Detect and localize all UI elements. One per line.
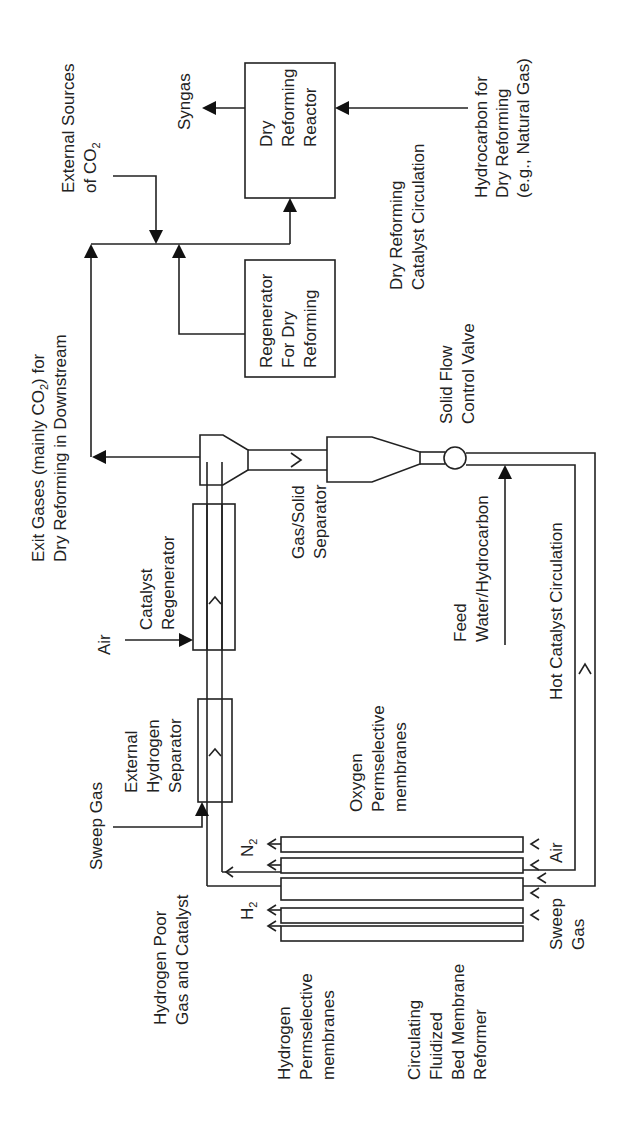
regenerator-output-arrow-icon [172, 244, 186, 258]
exit-gases-up-arrow-icon [84, 244, 98, 258]
oxygen-membranes-label-3: membranes [391, 722, 410, 812]
hydrogen-membranes-label-2: Permselective [297, 973, 316, 1080]
sweep-gas-bottom-label-1: Sweep [547, 898, 566, 950]
exit-gases-arrow-icon [92, 450, 106, 464]
regenerator-dry-label-2: For Dry [279, 311, 298, 368]
air-in-arrow-2-icon [531, 860, 539, 870]
air-regen-arrow-icon [179, 633, 193, 647]
ext-h2-separator-label-2: Hydrogen [144, 719, 163, 793]
external-co2-label-1: External Sources [59, 64, 78, 193]
reformer-bed [281, 878, 523, 900]
cfbmr-label-1: Circulating [405, 1000, 424, 1080]
sweep-gas-bottom-label-2: Gas [569, 919, 588, 950]
transfer-flow-arrow-icon [291, 453, 301, 467]
hydrogen-membranes-label-3: membranes [319, 990, 338, 1080]
air-in-arrow-1-icon [531, 839, 539, 849]
process-flow-diagram: Dry Reforming Reactor Syngas Hydrocarbon… [0, 0, 630, 1123]
hydrocarbon-dry-arrow-icon [335, 101, 349, 115]
regenerator-output-line [179, 258, 245, 334]
dry-reforming-reactor-label-3: Reactor [301, 87, 320, 147]
exit-gases-label-1: Exit Gases (mainly CO2) for [29, 353, 50, 562]
reactor-feed-arrow-icon [283, 198, 297, 212]
oxygen-membrane-tube-2 [281, 858, 523, 873]
valve-label-1: Solid Flow [437, 345, 456, 424]
sweep-gas-top-line [113, 814, 202, 827]
regenerator-dry-label-1: Regenerator [257, 273, 276, 368]
air-bottom-label: Air [547, 842, 566, 863]
hydrocarbon-dry-label-1: Hydrocarbon for [472, 76, 491, 198]
valve-label-2: Control Valve [459, 323, 478, 424]
h2-label: H2 [238, 902, 259, 920]
feed-arrow-icon [498, 465, 512, 479]
hydrogen-poor-label-2: Gas and Catalyst [173, 894, 192, 1025]
cfbmr-label-2: Fluidized [427, 1012, 446, 1080]
external-co2-line [113, 176, 156, 232]
dry-catalyst-circulation-label-2: Catalyst Circulation [409, 144, 428, 290]
oxygen-membranes-label-1: Oxygen [347, 753, 366, 812]
catalyst-regenerator-label-1: Catalyst [137, 568, 156, 630]
ext-h2-separator-label-1: External [122, 731, 141, 793]
hydrogen-poor-label-1: Hydrogen Poor [151, 910, 170, 1025]
hydrogen-membranes-label-1: Hydrogen [275, 1006, 294, 1080]
sweep-in-arrow-2-icon [531, 910, 539, 920]
external-hydrogen-separator-box [198, 699, 232, 802]
air-regen-label: Air [95, 634, 114, 655]
n2-label: N2 [238, 839, 259, 857]
cfbmr-label-4: Reformer [471, 1009, 490, 1080]
hot-catalyst-circulation-label: Hot Catalyst Circulation [547, 522, 566, 700]
sweep-gas-top-label: Sweep Gas [87, 782, 106, 870]
dry-catalyst-circulation-label-1: Dry Reforming [387, 180, 406, 290]
oxygen-membranes-label-2: Permselective [369, 705, 388, 812]
hot-catalyst-flow-arrow-icon [579, 664, 591, 674]
external-co2-label-2: of CO2 [81, 142, 102, 193]
hydrocarbon-dry-label-3: (e.g., Natural Gas) [514, 58, 533, 198]
syngas-label: Syngas [175, 73, 194, 130]
sweep-in-arrow-1-icon [531, 888, 539, 898]
syngas-arrow-icon [202, 101, 216, 115]
external-co2-arrow-icon [149, 230, 163, 244]
gas-solid-separator-label-2: Separator [311, 484, 330, 559]
catalyst-regenerator-label-2: Regenerator [159, 535, 178, 630]
hydrocarbon-dry-label-2: Dry Reforming [493, 88, 512, 198]
hydrogen-membrane-tube-1 [281, 908, 523, 923]
regenerator-dry-label-3: Reforming [301, 290, 320, 368]
catalyst-in-arrow-icon [538, 873, 546, 883]
ext-h2-separator-label-3: Separator [166, 718, 185, 793]
dry-reforming-reactor-label-2: Reforming [279, 69, 298, 147]
feed-label-2: Water/Hydrocarbon [473, 495, 492, 642]
oxygen-membrane-tube-1 [281, 837, 523, 852]
solid-flow-control-valve-icon [444, 447, 466, 469]
hydrogen-membrane-tube-2 [281, 926, 523, 941]
dry-reforming-reactor-label-1: Dry [257, 120, 276, 147]
gas-solid-separator [327, 437, 420, 482]
gas-solid-separator-label-1: Gas/Solid [289, 485, 308, 559]
exit-gases-label-2: Dry Reforming in Downstream [51, 334, 70, 562]
catalyst-regenerator-box [193, 504, 235, 650]
feed-label-1: Feed [451, 603, 470, 642]
cfbmr-label-3: Bed Membrane [449, 964, 468, 1080]
